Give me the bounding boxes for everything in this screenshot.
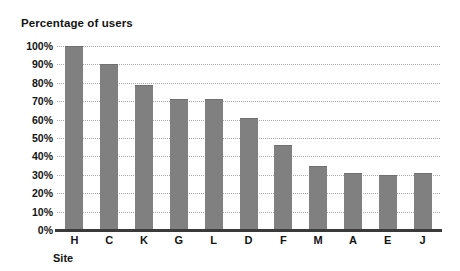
bar [344, 173, 362, 230]
x-axis-title: Site [53, 252, 73, 264]
y-axis-tick-label: 30% [32, 169, 53, 181]
y-axis-tick-label: 20% [32, 187, 53, 199]
gridline [57, 46, 440, 47]
x-axis-line [55, 229, 442, 232]
x-axis-tick-label: C [105, 234, 113, 246]
bar [205, 99, 223, 230]
bar [65, 46, 83, 230]
x-axis-tick-label: K [140, 234, 148, 246]
y-axis-tick-label: 70% [32, 95, 53, 107]
bar-chart-figure: Percentage of users 100%90%80%70%60%50%4… [0, 0, 460, 271]
bar [170, 99, 188, 230]
bar [379, 175, 397, 230]
x-axis-tick-label: E [384, 234, 391, 246]
x-axis-tick-labels: HCKGLDFMAEJ [57, 234, 440, 252]
bar [309, 166, 327, 230]
bar [135, 85, 153, 230]
y-axis-tick-label: 40% [32, 150, 53, 162]
x-axis-tick-label: M [314, 234, 323, 246]
y-axis-tick-labels: 100%90%80%70%60%50%40%30%20%10%0% [12, 46, 53, 230]
chart-title: Percentage of users [21, 17, 133, 29]
y-axis-tick-label: 100% [26, 40, 53, 52]
x-axis-tick-label: G [175, 234, 184, 246]
bar [274, 145, 292, 230]
x-axis-tick-label: D [245, 234, 253, 246]
plot-area [57, 46, 440, 230]
x-axis-tick-label: J [420, 234, 426, 246]
bar [414, 173, 432, 230]
x-axis-tick-label: H [70, 234, 78, 246]
y-axis-tick-label: 0% [38, 224, 53, 236]
y-axis-tick-label: 10% [32, 206, 53, 218]
bar [240, 118, 258, 230]
y-axis-tick-label: 50% [32, 132, 53, 144]
x-axis-tick-label: A [349, 234, 357, 246]
bar [100, 64, 118, 230]
y-axis-tick-label: 90% [32, 58, 53, 70]
y-axis-tick-label: 60% [32, 114, 53, 126]
y-axis-tick-label: 80% [32, 77, 53, 89]
x-axis-tick-label: F [280, 234, 287, 246]
x-axis-tick-label: L [210, 234, 217, 246]
